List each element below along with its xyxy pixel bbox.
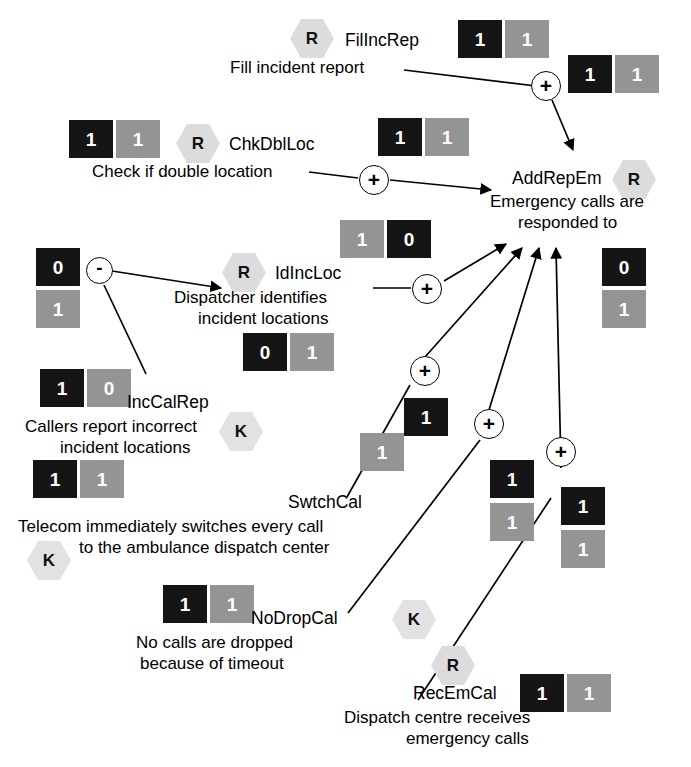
operator-symbol: + [540,75,552,96]
value-box-swtchcal-gray: 1 [80,460,124,498]
node-description-addrepem-line1: Emergency calls are [490,192,644,212]
value-box-op-nodropcal-gray: 1 [490,503,534,541]
node-description-incalrep-line1: Callers report incorrect [25,417,197,437]
operator-symbol: + [419,360,431,381]
badge-r-chkdblloc: R [176,124,220,163]
node-label-incalrep[interactable]: IncCalRep [127,392,209,412]
node-label-recemcal[interactable]: RecEmCal [413,683,497,703]
value-box-op-chkdblloc-gray: 1 [425,118,469,156]
value-box-op-nodropcal-black: 1 [490,460,534,498]
value-box-op-filincrep-gray: 1 [615,55,659,93]
badge-k-incalrep: K [219,412,263,451]
value-box-op-recemcal-gray: 1 [561,530,605,568]
value-box-op-swtchcal-gray: 1 [360,433,404,471]
operator-symbol: + [555,441,567,462]
edge-op-filincrep-to-addrepem [552,100,573,150]
operator-plus-idincloc[interactable]: + [412,274,442,304]
node-label-filincrep[interactable]: FilIncRep [345,30,419,50]
value-box-idincloc-gray: 1 [290,333,334,371]
edge-op-chkdblloc-to-addrepem [390,180,491,190]
value-box-op-idincloc-gray: 1 [340,220,384,258]
node-description-swtchcal-line2: to the ambulance dispatch center [79,538,329,558]
value-box-filincrep-black: 1 [458,20,502,58]
value-box-op-recemcal-black: 1 [561,487,605,525]
value-box-op-swtchcal-black: 1 [404,398,448,436]
operator-symbol: + [368,169,380,190]
value-box-incalrep-gray: 0 [87,369,131,407]
edge-op-minus-to-idincloc [112,271,221,288]
operator-symbol: + [421,278,433,299]
node-label-chkdblloc[interactable]: ChkDblLoc [229,134,315,154]
badge-r-idincloc: R [222,253,266,292]
value-box-recemcal-gray: 1 [567,674,611,712]
node-description-addrepem-line2: responded to [518,213,617,233]
value-box-op-minus-gray: 1 [36,290,80,328]
node-label-swtchcal[interactable]: SwtchCal [288,492,362,512]
operator-plus-swtchcal[interactable]: + [410,356,440,386]
node-description-swtchcal-line1: Telecom immediately switches every call [18,517,323,537]
node-description-nodropcal-line2: because of timeout [140,654,284,674]
value-box-incalrep-black: 1 [40,369,84,407]
badge-r-filincrep: R [290,19,334,58]
node-label-nodropcal[interactable]: NoDropCal [251,608,338,628]
node-label-addrepem[interactable]: AddRepEm [512,168,602,188]
node-description-chkdblloc: Check if double location [92,162,273,182]
value-box-op-minus-black: 0 [36,248,80,286]
operator-symbol: + [483,413,495,434]
node-description-filincrep: Fill incident report [230,58,364,78]
value-box-nodropcal-black: 1 [163,585,207,623]
edge-incalrep-to-op-minus [104,285,146,374]
node-description-incalrep-line2: incident locations [60,438,190,458]
node-description-recemcal-line1: Dispatch centre receives [344,708,530,728]
value-box-filincrep-gray: 1 [505,20,549,58]
value-box-op-filincrep-black: 1 [568,55,612,93]
value-box-op-idincloc-black: 0 [387,220,431,258]
node-description-nodropcal-line1: No calls are dropped [136,633,293,653]
operator-plus-chkdblloc[interactable]: + [359,165,389,195]
edge-op-nodropcal-to-addrepem [489,248,539,410]
node-description-idincloc-line2: incident locations [198,309,328,329]
value-box-addrepem-black: 0 [602,248,646,286]
operator-symbol: - [96,258,102,277]
edge-op-swtchcal-to-addrepem [425,248,522,357]
value-box-addrepem-gray: 1 [602,290,646,328]
node-description-recemcal-line2: emergency calls [406,729,529,749]
operator-plus-nodropcal[interactable]: + [474,409,504,439]
operator-plus-recemcal[interactable]: + [546,437,576,467]
operator-minus-incalrep[interactable]: - [86,257,113,284]
edge-op-recemcal-to-addrepem [556,248,561,468]
edge-chkdblloc-to-op [309,172,358,178]
badge-k-nodropcal: K [392,600,436,639]
value-box-recemcal-black: 1 [520,674,564,712]
value-box-op-chkdblloc-black: 1 [378,118,422,156]
diagram-canvas: R FilIncRep Fill incident report 1 1 + 1… [0,0,691,767]
value-box-chkdblloc-black: 1 [69,120,113,158]
badge-r-recemcal: R [431,646,475,685]
badge-k-swtchcal: K [27,541,71,580]
operator-plus-filincrep[interactable]: + [531,71,561,101]
node-description-idincloc-line1: Dispatcher identifies [174,288,327,308]
node-label-idincloc[interactable]: IdIncLoc [275,263,341,283]
value-box-swtchcal-black: 1 [33,460,77,498]
value-box-idincloc-black: 0 [243,333,287,371]
edge-op-idincloc-to-addrepem [444,244,506,281]
value-box-chkdblloc-gray: 1 [116,120,160,158]
value-box-nodropcal-gray: 1 [210,585,254,623]
edge-filincrep-to-op [404,70,536,86]
